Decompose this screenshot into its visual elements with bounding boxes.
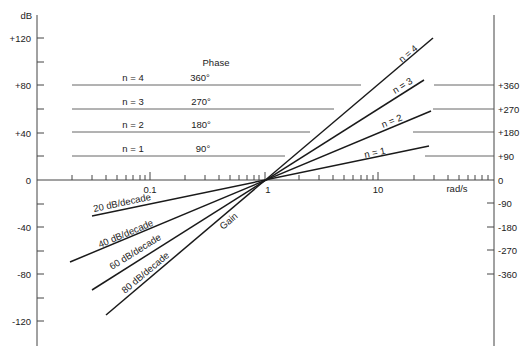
x-unit-label: rad/s: [446, 183, 467, 194]
gain-label: Gain: [217, 210, 239, 231]
y-left-tick-label: +120: [10, 33, 31, 44]
y-left-tick-label: +80: [15, 80, 31, 91]
y-right-tick-label: +180: [498, 127, 519, 138]
y-right-tick-label: -180: [498, 222, 517, 233]
y-left-tick-label: -40: [17, 222, 31, 233]
y-left-unit-label: dB: [20, 10, 32, 21]
y-left-tick-label: 0: [26, 175, 31, 186]
phase-n4-label: n = 4: [122, 72, 143, 83]
y-left-tick-label: -80: [17, 269, 31, 280]
y-left-tick-label: +40: [15, 128, 31, 139]
gain-line-n4: [106, 38, 433, 315]
phase-360-label: 360°: [190, 72, 210, 83]
bode-plot: dB +120 +80 +40 0 -40 -80 -120 +360 +270…: [0, 0, 528, 360]
phase-180-label: 180°: [191, 119, 211, 130]
y-right-tick-label: 0: [498, 175, 503, 186]
x-tick-label: 10: [373, 184, 384, 195]
bode-plot-svg: dB +120 +80 +40 0 -40 -80 -120 +360 +270…: [0, 0, 528, 360]
y-left-tick-label: -120: [12, 316, 31, 327]
phase-n2-label: n = 2: [122, 119, 143, 130]
gain-n4-label: n = 4: [396, 42, 419, 64]
phase-90-label: 90°: [196, 143, 211, 154]
phase-n3-label: n = 3: [122, 96, 143, 107]
phase-270-label: 270°: [191, 96, 211, 107]
y-right-tick-label: +90: [498, 151, 514, 162]
frequency-axis: [37, 172, 494, 180]
phase-n1-label: n = 1: [122, 143, 143, 154]
y-right-tick-label: +360: [498, 80, 519, 91]
y-right-tick-label: -270: [498, 245, 517, 256]
left-db-tick-labels: +120 +80 +40 0 -40 -80 -120: [10, 33, 31, 327]
x-tick-label: 1: [265, 184, 270, 195]
y-right-tick-label: -360: [498, 269, 517, 280]
right-phase-tick-labels: +360 +270 +180 +90 0 -90 -180 -270 -360: [498, 80, 519, 280]
phase-header: Phase: [203, 57, 230, 68]
y-right-tick-label: +270: [498, 104, 519, 115]
y-right-tick-label: -90: [498, 198, 512, 209]
gain-n1-label: n = 1: [363, 145, 386, 160]
gain-n3-label: n = 3: [390, 75, 414, 96]
